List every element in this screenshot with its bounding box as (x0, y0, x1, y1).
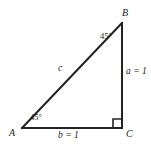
horizontal-leg-label: b = 1 (58, 131, 79, 141)
hypotenuse-label: c (58, 64, 62, 74)
right-angle-marker (113, 119, 122, 128)
triangle-figure: A B C c a = 1 b = 1 45° 45° (0, 0, 151, 144)
vertical-leg-label: a = 1 (126, 67, 147, 77)
angle-label-b: 45° (100, 32, 112, 41)
vertex-label-b: B (122, 8, 128, 18)
vertex-label-a: A (9, 128, 15, 138)
vertex-label-c: C (126, 129, 133, 139)
angle-label-a: 45° (30, 113, 42, 122)
